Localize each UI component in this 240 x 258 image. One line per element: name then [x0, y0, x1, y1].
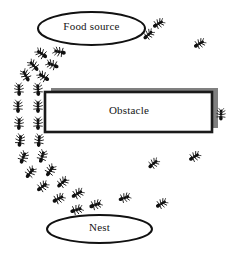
ant-icon — [146, 157, 161, 171]
ant-icon — [192, 37, 207, 50]
ant-icon — [117, 192, 131, 204]
ant-icon — [14, 117, 23, 130]
ant-icon — [33, 83, 43, 96]
ant-icon — [17, 150, 30, 165]
obstacle-label: Obstacle — [46, 104, 212, 116]
ant-icon — [45, 58, 60, 71]
ant-icon — [154, 197, 169, 210]
food-source-label: Food source — [38, 20, 145, 32]
ant-icon — [51, 192, 67, 206]
ant-icon — [69, 204, 84, 216]
ant-icon — [14, 100, 23, 113]
diagram-scene — [0, 0, 240, 258]
ant-icon — [187, 150, 202, 164]
ant-icon — [36, 69, 52, 84]
ant-icon — [14, 83, 23, 96]
ant-icon — [55, 175, 70, 190]
ant-icon — [34, 134, 44, 148]
ant-icon — [151, 17, 166, 30]
ant-icon — [23, 165, 38, 181]
ant-icon — [34, 46, 50, 61]
ant-icon — [43, 163, 58, 179]
ant-icon — [36, 149, 48, 164]
ant-icon — [35, 179, 51, 194]
ant-icon — [34, 117, 43, 130]
ant-icon — [26, 58, 41, 73]
ant-icon — [70, 187, 86, 201]
nest-label: Nest — [47, 221, 152, 233]
ant-icon — [19, 68, 33, 84]
ant-icon — [34, 100, 43, 113]
diagram-canvas: Food source Obstacle Nest — [0, 0, 240, 258]
ant-icon — [88, 198, 103, 211]
ant-icon — [52, 46, 66, 57]
ant-icon — [15, 133, 26, 147]
